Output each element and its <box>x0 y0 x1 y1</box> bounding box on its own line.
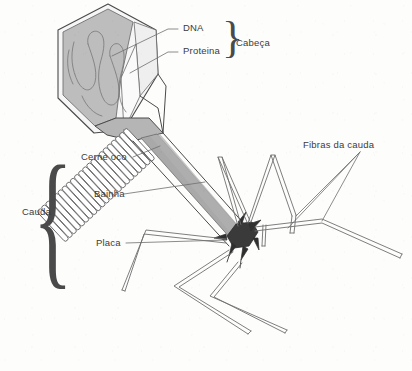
label-tail-fibers: Fibras da cauda <box>303 140 374 150</box>
figure-canvas: .ink{fill:none;stroke:#4a4a4a;stroke-wid… <box>0 0 412 371</box>
label-protein: Proteina <box>183 46 220 56</box>
tail-brace: { <box>33 143 73 293</box>
label-dna: DNA <box>183 23 204 33</box>
phage-head <box>58 4 166 141</box>
label-tail: Cauda <box>22 207 51 217</box>
core-shadow <box>150 134 242 236</box>
label-hollow-core: Cerne oco <box>81 152 127 162</box>
tail-fibers <box>122 155 402 334</box>
label-sheath: Bainha <box>94 189 125 199</box>
label-head: Cabeça <box>236 38 270 48</box>
label-plate: Placa <box>96 238 121 248</box>
